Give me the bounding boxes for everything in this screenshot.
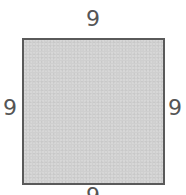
left-side-label: 9 bbox=[0, 97, 20, 119]
bottom-side-label: 9 bbox=[83, 185, 103, 195]
top-side-label: 9 bbox=[83, 8, 103, 30]
right-side-label: 9 bbox=[165, 97, 185, 119]
diagram-canvas: 9 9 9 9 bbox=[0, 0, 186, 195]
square-shape bbox=[22, 38, 165, 185]
